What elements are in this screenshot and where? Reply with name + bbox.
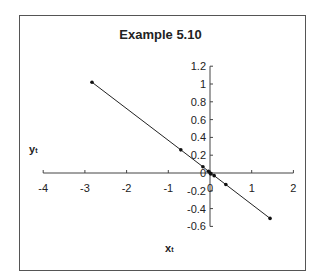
x-tick-label: 1 bbox=[249, 182, 255, 194]
x-tick-label: -2 bbox=[122, 182, 132, 194]
y-tick-label: -0.6 bbox=[187, 220, 206, 232]
y-tick-label: 0.8 bbox=[191, 96, 206, 108]
data-point bbox=[179, 148, 183, 152]
data-point bbox=[209, 172, 213, 176]
x-tick-label: -4 bbox=[38, 182, 48, 194]
y-tick-label: -0.2 bbox=[187, 185, 206, 197]
y-tick-label: 1 bbox=[200, 78, 206, 90]
data-point bbox=[90, 80, 94, 84]
x-tick-label: -1 bbox=[163, 182, 173, 194]
data-point bbox=[212, 174, 216, 178]
y-tick-label: -0.4 bbox=[187, 203, 206, 215]
data-point bbox=[201, 165, 205, 169]
data-point bbox=[268, 217, 272, 221]
y-tick-label: 1.2 bbox=[191, 60, 206, 72]
plot-area: -4-3-2-10121.210.80.60.40.20-0.2-0.4-0.6 bbox=[0, 0, 321, 278]
data-point bbox=[224, 183, 228, 187]
x-tick-label: -3 bbox=[80, 182, 90, 194]
x-tick-label: 2 bbox=[290, 182, 296, 194]
y-tick-label: 0.4 bbox=[191, 131, 206, 143]
y-tick-label: 0.6 bbox=[191, 114, 206, 126]
x-tick-label: 0 bbox=[207, 182, 213, 194]
